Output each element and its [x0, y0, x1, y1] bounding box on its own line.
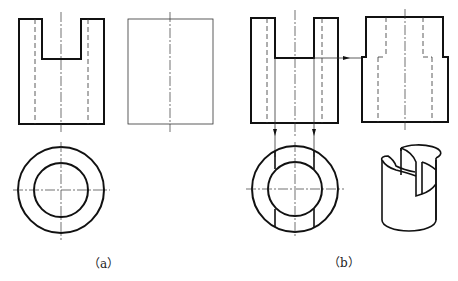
orthographic-drawing: [0, 0, 458, 281]
side-view-outline: [128, 19, 213, 124]
panel-b-front-view: [251, 10, 338, 136]
front-view-outline: [251, 18, 338, 123]
panel-a-top-view: [13, 142, 110, 240]
panel-b-top-view: [246, 142, 344, 238]
panel-b: [246, 9, 448, 238]
front-segment-top: [382, 156, 415, 172]
panel-a-front-view: [19, 12, 104, 132]
projection-lines-vertical: [273, 123, 316, 157]
slot-top: [422, 162, 436, 170]
back-segment-inner: [401, 148, 416, 165]
arrow-right-icon: [343, 56, 350, 60]
front-view-outline: [19, 19, 104, 124]
panel-b-label: （b）: [328, 253, 360, 270]
panel-b-side-view: [362, 9, 448, 130]
panel-a-label: （a）: [88, 254, 119, 271]
panel-b-isometric-view: [382, 145, 441, 231]
panel-a: [13, 12, 213, 240]
slot-face: [422, 162, 436, 194]
panel-a-side-view: [128, 12, 213, 132]
arrow-down-icon: [273, 129, 277, 136]
arrow-down-icon: [312, 129, 316, 136]
slot-vertical-edge: [416, 165, 422, 196]
